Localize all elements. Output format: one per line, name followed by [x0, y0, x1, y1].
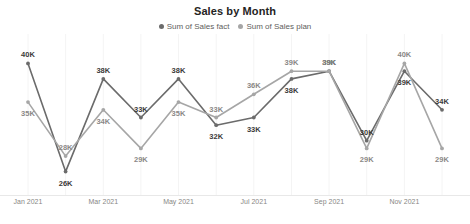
- data-point-marker[interactable]: [214, 123, 218, 127]
- data-point-marker[interactable]: [290, 69, 294, 73]
- data-point-marker[interactable]: [440, 147, 444, 151]
- legend-item-sales-plan[interactable]: Sum of Sales plan: [238, 22, 311, 31]
- data-point-marker[interactable]: [64, 170, 68, 174]
- x-axis-tick-label: Mar 2021: [89, 198, 119, 205]
- sales-by-month-chart: Sales by Month Sum of Sales fact Sum of …: [0, 0, 470, 224]
- data-point-marker[interactable]: [290, 77, 294, 81]
- data-point-marker[interactable]: [403, 62, 407, 66]
- chart-legend: Sum of Sales fact Sum of Sales plan: [0, 22, 470, 31]
- plot-area: [0, 34, 470, 195]
- x-axis-tick-label: May 2021: [163, 198, 194, 205]
- data-point-marker[interactable]: [177, 100, 181, 104]
- x-axis-tick-label: Sep 2021: [314, 198, 344, 205]
- data-point-marker[interactable]: [440, 108, 444, 112]
- legend-marker-icon: [238, 24, 243, 29]
- chart-title: Sales by Month: [0, 5, 470, 17]
- line-chart-svg: [0, 34, 470, 195]
- data-point-marker[interactable]: [101, 108, 105, 112]
- data-point-marker[interactable]: [177, 77, 181, 81]
- x-axis-tick-label: Jan 2021: [14, 198, 43, 205]
- legend-label: Sum of Sales plan: [246, 22, 311, 31]
- x-axis-tick-labels: Jan 2021Mar 2021May 2021Jul 2021Sep 2021…: [0, 196, 470, 212]
- x-axis-tick-label: Jul 2021: [241, 198, 267, 205]
- data-point-marker[interactable]: [252, 116, 256, 120]
- data-point-marker[interactable]: [26, 62, 30, 66]
- data-point-marker[interactable]: [365, 147, 369, 151]
- data-point-marker[interactable]: [64, 154, 68, 158]
- legend-label: Sum of Sales fact: [167, 22, 230, 31]
- data-point-marker[interactable]: [139, 147, 143, 151]
- data-point-marker[interactable]: [365, 139, 369, 143]
- data-point-marker[interactable]: [327, 69, 331, 73]
- x-axis-tick-label: Nov 2021: [389, 198, 419, 205]
- data-point-marker[interactable]: [214, 116, 218, 120]
- data-point-marker[interactable]: [252, 92, 256, 96]
- data-point-marker[interactable]: [403, 69, 407, 73]
- data-point-marker[interactable]: [26, 100, 30, 104]
- legend-marker-icon: [159, 24, 164, 29]
- data-point-marker[interactable]: [101, 77, 105, 81]
- data-point-marker[interactable]: [139, 116, 143, 120]
- legend-item-sales-fact[interactable]: Sum of Sales fact: [159, 22, 230, 31]
